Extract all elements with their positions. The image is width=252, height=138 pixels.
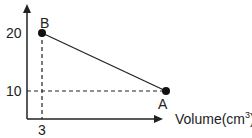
y-tick-20: 20 <box>6 25 22 41</box>
y-axis-arrow-icon <box>23 4 31 13</box>
x-tick-3: 3 <box>38 122 46 138</box>
y-tick-10: 10 <box>6 83 22 99</box>
x-axis-label: Volume(cm3) <box>175 110 252 127</box>
point-b-label: B <box>40 15 49 31</box>
x-axis-arrow-icon <box>154 115 163 123</box>
pv-diagram: B A 20 10 3 Volume(cm3) <box>0 0 252 138</box>
point-a-label: A <box>158 96 168 112</box>
line-b-a <box>42 33 166 91</box>
point-a <box>162 87 170 95</box>
